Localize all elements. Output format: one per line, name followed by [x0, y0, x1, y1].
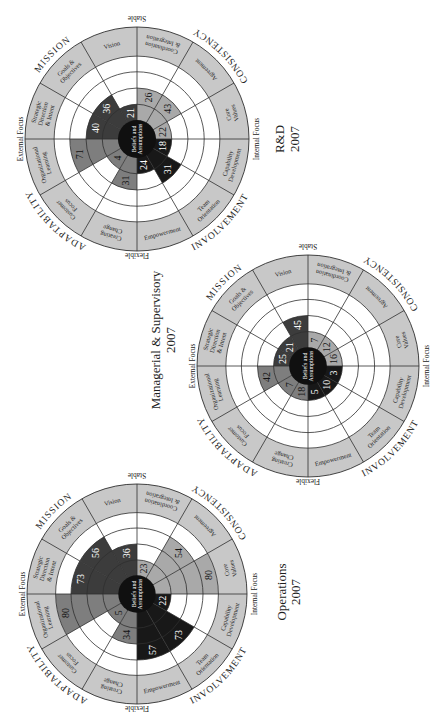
core-label-line: Assumptions	[308, 350, 314, 381]
core-label: Beliefs andAssumptions	[302, 350, 314, 381]
score-value-vision: 21	[125, 108, 136, 118]
score-value-agreement: 12	[321, 342, 332, 352]
score-value-creating-change: 18	[296, 387, 307, 397]
score-value-agreement: 43	[162, 104, 173, 114]
score-value-agreement: 54	[173, 548, 184, 558]
core-label-line: Beliefs and	[131, 581, 137, 608]
core-label: Beliefs andAssumptions	[131, 123, 143, 154]
score-value-core-values: 16	[328, 354, 339, 364]
score-value-creating-change: 31	[120, 175, 131, 185]
chart-title-rnd: R&D 2007	[272, 125, 302, 153]
axis-label-stable: Stable	[127, 471, 146, 480]
score-value-capability-development: 3	[328, 370, 339, 375]
axis-label-stable: Stable	[127, 14, 146, 23]
score-value-strategic-direction-intent: 73	[75, 574, 86, 584]
score-value-team-orientation: 73	[173, 630, 184, 640]
score-value-coordination-integration: 26	[143, 93, 154, 103]
score-value-vision: 36	[121, 548, 132, 558]
score-value-team-orientation: 10	[321, 380, 332, 390]
score-value-empowerment: 5	[309, 389, 320, 394]
chart-title-line: Operations	[274, 563, 289, 620]
axis-label-external-focus: External Focus	[16, 117, 25, 162]
score-value-core-values: 22	[157, 127, 168, 137]
core-label-line: Beliefs and	[302, 353, 308, 380]
score-value-goals-objectives: 36	[101, 104, 112, 114]
score-value-capability-development: 18	[157, 141, 168, 151]
score-value-empowerment: 57	[147, 645, 158, 655]
chart-operations-2007: Beliefs andAssumptions235480227357345807…	[18, 471, 259, 713]
axis-label-external-focus: External Focus	[18, 572, 27, 617]
chart-title-year: 2007	[287, 126, 302, 153]
axis-label-flexible: Flexible	[295, 477, 320, 486]
score-value-core-values: 80	[203, 570, 214, 580]
chart-title-line: R&D	[272, 125, 287, 153]
axis-label-flexible: Flexible	[124, 251, 149, 260]
axis-label-internal-focus: Internal Focus	[422, 345, 431, 388]
chart-title-year: 2007	[288, 579, 303, 606]
core-label-line: Assumptions	[137, 123, 143, 154]
axis-label-stable: Stable	[298, 242, 317, 251]
score-value-customer-focus: 5	[113, 610, 124, 615]
score-value-creating-change: 34	[121, 630, 132, 640]
score-value-vision: 45	[292, 320, 303, 330]
score-value-capability-development: 22	[157, 596, 168, 606]
score-value-organizational-learning: 42	[261, 372, 272, 382]
core-label: Beliefs andAssumptions	[131, 578, 143, 609]
score-value-strategic-direction-intent: 40	[90, 123, 101, 133]
core-label-line: Assumptions	[137, 578, 143, 609]
score-value-customer-focus: 7	[284, 382, 295, 387]
culture-profile-page: Beliefs andAssumptions264322183124314714…	[0, 0, 444, 727]
axis-label-internal-focus: Internal Focus	[252, 118, 261, 161]
axis-label-external-focus: External Focus	[188, 344, 197, 389]
score-value-goals-objectives: 21	[284, 342, 295, 352]
chart-rnd-2007: Beliefs andAssumptions264322183124314714…	[16, 14, 261, 260]
score-value-coordination-integration: 23	[138, 564, 149, 574]
chart-title-year: 2007	[163, 327, 178, 354]
score-value-organizational-learning: 80	[60, 608, 71, 618]
score-value-coordination-integration: 7	[309, 338, 320, 343]
score-value-customer-focus: 4	[112, 156, 123, 161]
score-value-organizational-learning: 71	[74, 149, 85, 159]
axis-label-internal-focus: Internal Focus	[250, 573, 259, 616]
chart-managerial-supervisory-2007: Beliefs andAssumptions712163105187422521…	[188, 242, 431, 486]
core-label-line: Beliefs and	[131, 126, 137, 153]
axis-label-flexible: Flexible	[124, 704, 149, 713]
score-value-strategic-direction-intent: 25	[277, 354, 288, 364]
score-value-empowerment: 24	[138, 160, 149, 170]
score-value-team-orientation: 31	[162, 164, 173, 174]
chart-title-line: Managerial & Supervisory	[148, 270, 163, 409]
score-value-goals-objectives: 56	[90, 548, 101, 558]
